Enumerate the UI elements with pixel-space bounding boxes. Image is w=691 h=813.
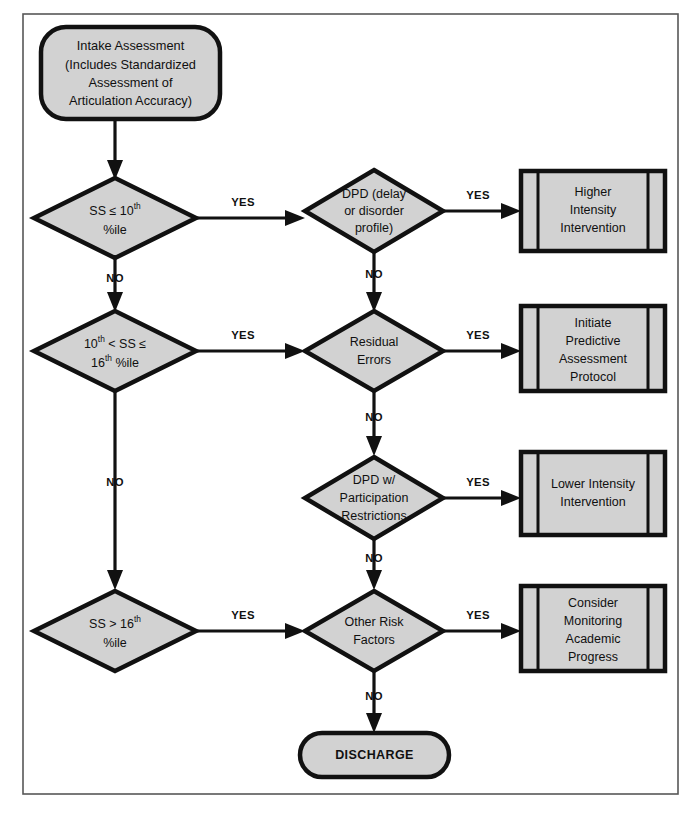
d4-line-1: Residual	[350, 335, 399, 349]
d2-line-3: profile)	[355, 221, 393, 235]
node-process-lower-intensity-intervention[interactable]: Lower Intensity Intervention	[521, 452, 665, 535]
d5-line-1: DPD w/	[353, 473, 396, 487]
edge-label-yes-d1-d2: YES	[231, 196, 255, 208]
diagram-border-frame	[23, 14, 678, 794]
node-discharge[interactable]: DISCHARGE	[300, 733, 449, 777]
d3-line-2: 16th %ile	[91, 353, 139, 370]
intake-line-4: Articulation Accuracy)	[69, 93, 192, 108]
edge-d4-to-p2-yes	[443, 343, 521, 359]
d2-line-1: DPD (delay	[342, 187, 407, 201]
p4-line-4: Progress	[568, 650, 618, 664]
node-process-higher-intensity-intervention[interactable]: Higher Intensity Intervention	[521, 171, 665, 251]
node-process-consider-monitoring-academic-progress[interactable]: Consider Monitoring Academic Progress	[521, 586, 665, 671]
p4-line-1: Consider	[568, 596, 618, 610]
edge-label-no-d4-d5: NO	[365, 411, 383, 423]
edge-label-yes-d3-d4: YES	[231, 329, 255, 341]
edge-label-no-d7-discharge: NO	[365, 690, 383, 702]
edge-d5-to-d7-no	[366, 538, 382, 590]
intake-line-1: Intake Assessment	[77, 38, 185, 53]
edge-d4-to-d5-no	[366, 390, 382, 456]
edge-label-yes-d7-p4: YES	[466, 609, 490, 621]
edge-label-no-d1-d3: NO	[106, 272, 124, 284]
p1-line-2: Intensity	[570, 203, 617, 217]
edge-d5-to-p3-yes	[443, 490, 521, 506]
edge-d2-to-d4-no	[366, 253, 382, 312]
d7-line-2: Factors	[353, 633, 395, 647]
d2-line-2: or disorder	[344, 204, 404, 218]
edge-d7-to-discharge-no	[366, 671, 382, 733]
edge-label-no-d5-d7: NO	[365, 552, 383, 564]
d6-line-1: SS > 16th	[89, 614, 141, 631]
edge-d1-to-d2-yes	[197, 210, 305, 226]
edge-label-no-d2-d4: NO	[365, 268, 383, 280]
flowchart-svg: Intake Assessment (Includes Standardized…	[0, 0, 691, 813]
d7-line-1: Other Risk	[344, 615, 404, 629]
d3-line-1: 10th < SS ≤	[84, 334, 146, 351]
p1-line-3: Intervention	[560, 221, 625, 235]
edge-label-no-d3-d6: NO	[106, 476, 124, 488]
node-decision-ss-le-10th[interactable]: SS ≤ 10th %ile	[34, 178, 196, 258]
p2-line-3: Assessment	[559, 352, 628, 366]
p1-line-1: Higher	[575, 185, 612, 199]
edge-d7-to-p4-yes	[443, 623, 521, 639]
discharge-text: DISCHARGE	[335, 748, 414, 762]
edge-d3-to-d4-yes	[197, 343, 305, 359]
d4-shape[interactable]	[305, 311, 443, 391]
d7-shape[interactable]	[305, 591, 443, 671]
node-decision-residual-errors[interactable]: Residual Errors	[305, 311, 443, 391]
d4-line-2: Errors	[357, 353, 391, 367]
p2-line-2: Predictive	[566, 334, 621, 348]
p4-line-3: Academic	[566, 632, 621, 646]
edge-d6-to-d7-yes	[197, 623, 305, 639]
node-process-initiate-predictive-assessment-protocol[interactable]: Initiate Predictive Assessment Protocol	[521, 306, 665, 391]
edge-label-yes-d4-p2: YES	[466, 329, 490, 341]
intake-line-3: Assessment of	[89, 75, 173, 90]
p2-line-4: Protocol	[570, 370, 616, 384]
flowchart-canvas: Intake Assessment (Includes Standardized…	[0, 0, 691, 813]
d1-line-2: %ile	[103, 223, 127, 237]
intake-line-2: (Includes Standardized	[65, 57, 196, 72]
p3-shape[interactable]	[521, 452, 665, 535]
node-decision-ss-between-10th-16th[interactable]: 10th < SS ≤ 16th %ile	[34, 311, 196, 391]
d1-line-1: SS ≤ 10th	[89, 201, 141, 218]
node-intake-assessment[interactable]: Intake Assessment (Includes Standardized…	[41, 27, 220, 119]
node-decision-dpd-profile[interactable]: DPD (delay or disorder profile)	[305, 170, 443, 252]
edge-label-yes-d2-p1: YES	[466, 189, 490, 201]
edge-label-yes-d6-d7: YES	[231, 609, 255, 621]
edge-d2-to-p1-yes	[443, 203, 521, 219]
d6-line-2: %ile	[103, 636, 127, 650]
d5-line-2: Participation	[340, 491, 409, 505]
edge-label-yes-d5-p3: YES	[466, 476, 490, 488]
p3-line-1: Lower Intensity	[551, 477, 636, 491]
edge-d3-to-d6-no	[107, 392, 123, 590]
node-decision-other-risk-factors[interactable]: Other Risk Factors	[305, 591, 443, 671]
d5-line-3: Restrictions	[341, 509, 406, 523]
p3-line-2: Intervention	[560, 495, 625, 509]
node-decision-ss-gt-16th[interactable]: SS > 16th %ile	[34, 591, 196, 671]
edge-intake-to-d1	[107, 119, 123, 180]
node-decision-dpd-participation-restrictions[interactable]: DPD w/ Participation Restrictions	[305, 457, 443, 539]
edge-d1-to-d3-no	[107, 259, 123, 312]
p4-line-2: Monitoring	[564, 614, 622, 628]
p2-line-1: Initiate	[575, 316, 612, 330]
